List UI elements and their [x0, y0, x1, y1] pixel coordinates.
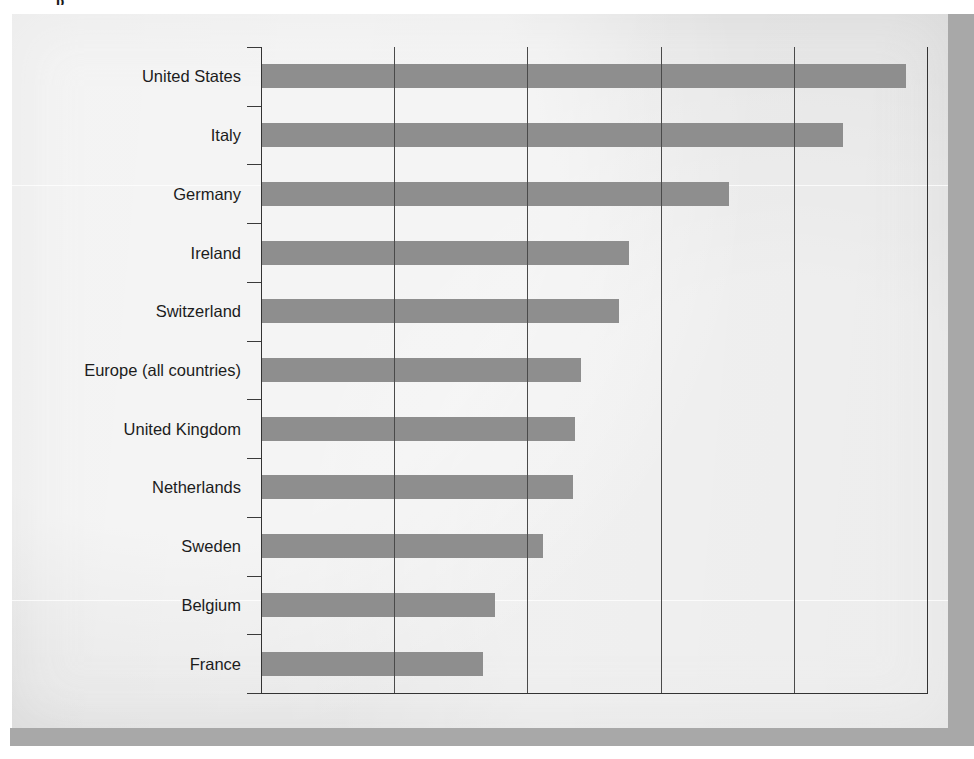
page-shadow-right — [948, 14, 974, 759]
clipped-header-text: p — [56, 0, 256, 5]
scanned-page: p United StatesItalyGermanyIrelandSwitze… — [0, 0, 974, 759]
page-shadow-fade — [0, 746, 974, 759]
figure-panel — [12, 14, 948, 728]
